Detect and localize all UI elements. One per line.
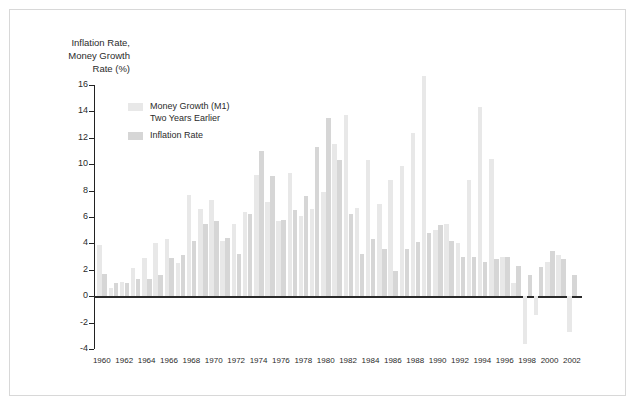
bar-inflation-rate	[248, 214, 252, 296]
bar-inflation-rate	[483, 262, 487, 296]
bar-money-growth-m1-two-years-earlier	[243, 212, 247, 296]
bar-inflation-rate	[214, 221, 218, 296]
bar-money-growth-m1-two-years-earlier	[355, 208, 359, 296]
bar-money-growth-m1-two-years-earlier	[467, 180, 471, 296]
bar-money-growth-m1-two-years-earlier	[153, 243, 157, 296]
bar-money-growth-m1-two-years-earlier	[444, 224, 448, 297]
bar-inflation-rate	[237, 254, 241, 296]
bar-money-growth-m1-two-years-earlier	[254, 175, 258, 296]
bar-money-growth-m1-two-years-earlier	[299, 216, 303, 297]
bar-money-growth-m1-two-years-earlier	[556, 255, 560, 296]
y-axis-labels: -4-20246810121416	[60, 85, 88, 349]
chart-figure: Inflation Rate, Money Growth Rate (%) Mo…	[0, 0, 635, 405]
bar-inflation-rate	[550, 251, 554, 296]
bar-inflation-rate	[147, 279, 151, 296]
bar-inflation-rate	[326, 118, 330, 296]
bar-money-growth-m1-two-years-earlier	[534, 296, 538, 314]
bar-inflation-rate	[561, 259, 565, 296]
bar-inflation-rate	[136, 279, 140, 296]
bar-money-growth-m1-two-years-earlier	[276, 221, 280, 296]
y-tick-mark	[89, 323, 94, 324]
bar-inflation-rate	[181, 255, 185, 296]
bar-money-growth-m1-two-years-earlier	[511, 283, 515, 296]
bar-money-growth-m1-two-years-earlier	[288, 173, 292, 296]
plot-area	[94, 85, 582, 349]
bar-money-growth-m1-two-years-earlier	[545, 262, 549, 296]
bar-money-growth-m1-two-years-earlier	[220, 241, 224, 296]
bar-inflation-rate	[528, 275, 532, 296]
y-tick-label: 6	[62, 211, 88, 221]
bar-money-growth-m1-two-years-earlier	[187, 195, 191, 297]
bar-inflation-rate	[516, 266, 520, 296]
bar-inflation-rate	[572, 275, 576, 296]
bar-inflation-rate	[472, 257, 476, 297]
bar-money-growth-m1-two-years-earlier	[209, 200, 213, 296]
bar-money-growth-m1-two-years-earlier	[176, 263, 180, 296]
bar-inflation-rate	[539, 267, 543, 296]
bar-inflation-rate	[102, 274, 106, 296]
bar-inflation-rate	[337, 160, 341, 296]
bar-inflation-rate	[270, 176, 274, 296]
bar-money-growth-m1-two-years-earlier	[400, 166, 404, 297]
y-tick-mark	[89, 243, 94, 244]
y-tick-mark	[89, 217, 94, 218]
bar-inflation-rate	[192, 241, 196, 296]
y-tick-mark	[89, 296, 94, 297]
bar-money-growth-m1-two-years-earlier	[377, 204, 381, 296]
bar-inflation-rate	[349, 214, 353, 296]
bar-money-growth-m1-two-years-earlier	[232, 224, 236, 297]
bar-money-growth-m1-two-years-earlier	[478, 107, 482, 296]
bar-money-growth-m1-two-years-earlier	[310, 209, 314, 296]
bar-inflation-rate	[169, 258, 173, 296]
bar-money-growth-m1-two-years-earlier	[321, 192, 325, 296]
y-tick-mark	[89, 349, 94, 350]
bar-inflation-rate	[315, 147, 319, 296]
bar-money-growth-m1-two-years-earlier	[142, 258, 146, 296]
bar-inflation-rate	[416, 242, 420, 296]
bar-inflation-rate	[158, 275, 162, 296]
bar-money-growth-m1-two-years-earlier	[344, 115, 348, 296]
bar-money-growth-m1-two-years-earlier	[265, 202, 269, 296]
bar-inflation-rate	[382, 249, 386, 297]
bar-inflation-rate	[304, 196, 308, 296]
bar-inflation-rate	[494, 259, 498, 296]
bar-inflation-rate	[125, 283, 129, 296]
bar-inflation-rate	[225, 238, 229, 296]
bar-inflation-rate	[393, 271, 397, 296]
y-tick-label: 16	[62, 79, 88, 89]
bar-money-growth-m1-two-years-earlier	[489, 159, 493, 296]
bar-inflation-rate	[427, 233, 431, 296]
y-tick-label: 8	[62, 185, 88, 195]
bar-money-growth-m1-two-years-earlier	[198, 209, 202, 296]
bar-money-growth-m1-two-years-earlier	[567, 296, 571, 332]
y-tick-label: 14	[62, 105, 88, 115]
y-axis-title: Inflation Rate, Money Growth Rate (%)	[20, 36, 130, 75]
bar-money-growth-m1-two-years-earlier	[433, 230, 437, 296]
bar-inflation-rate	[505, 257, 509, 297]
bar-money-growth-m1-two-years-earlier	[422, 76, 426, 296]
y-tick-label: 2	[62, 264, 88, 274]
bar-money-growth-m1-two-years-earlier	[456, 243, 460, 296]
bar-inflation-rate	[281, 220, 285, 297]
bar-inflation-rate	[360, 254, 364, 296]
y-tick-label: 4	[62, 237, 88, 247]
bar-inflation-rate	[293, 210, 297, 296]
bar-money-growth-m1-two-years-earlier	[120, 282, 124, 297]
bar-inflation-rate	[371, 239, 375, 296]
bar-inflation-rate	[114, 283, 118, 296]
x-tick-label: 2002	[557, 356, 587, 365]
bar-inflation-rate	[405, 249, 409, 297]
y-tick-label: 10	[62, 158, 88, 168]
bar-money-growth-m1-two-years-earlier	[411, 133, 415, 297]
y-tick-mark	[89, 85, 94, 86]
y-tick-mark	[89, 270, 94, 271]
y-tick-label: 0	[62, 290, 88, 300]
y-tick-mark	[89, 138, 94, 139]
bar-money-growth-m1-two-years-earlier	[366, 160, 370, 296]
y-tick-label: -4	[62, 343, 88, 353]
bar-inflation-rate	[203, 224, 207, 297]
bar-money-growth-m1-two-years-earlier	[500, 257, 504, 297]
x-axis-labels: 1960196219641966196819701972197419761978…	[94, 356, 594, 370]
y-tick-mark	[89, 164, 94, 165]
bar-money-growth-m1-two-years-earlier	[332, 144, 336, 296]
